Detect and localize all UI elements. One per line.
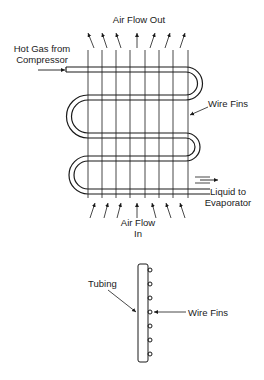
- hot-gas-line1: Hot Gas from: [6, 43, 78, 54]
- tubing-label: Tubing: [88, 278, 117, 289]
- air-in-arrows: [90, 203, 185, 218]
- air-in-line2: In: [113, 228, 163, 239]
- liquid-line2: Evaporator: [198, 197, 258, 208]
- side-wire-fins-label: Wire Fins: [188, 307, 228, 318]
- wire-fins-label: Wire Fins: [208, 98, 248, 109]
- hot-gas-label: Hot Gas from Compressor: [6, 43, 78, 65]
- fins-leader: [190, 107, 208, 115]
- side-view-fins: [148, 268, 152, 356]
- air-in-line1: Air Flow: [113, 217, 163, 228]
- liquid-to-evaporator-label: Liquid to Evaporator: [198, 186, 258, 208]
- air-flow-in-label: Air Flow In: [113, 217, 163, 239]
- hot-gas-line2: Compressor: [6, 54, 78, 65]
- air-flow-out-label: Air Flow Out: [104, 14, 174, 25]
- liquid-line1: Liquid to: [198, 186, 258, 197]
- side-view-tubing: [138, 264, 152, 362]
- tubing-leader: [108, 290, 136, 312]
- air-out-arrows: [88, 33, 185, 48]
